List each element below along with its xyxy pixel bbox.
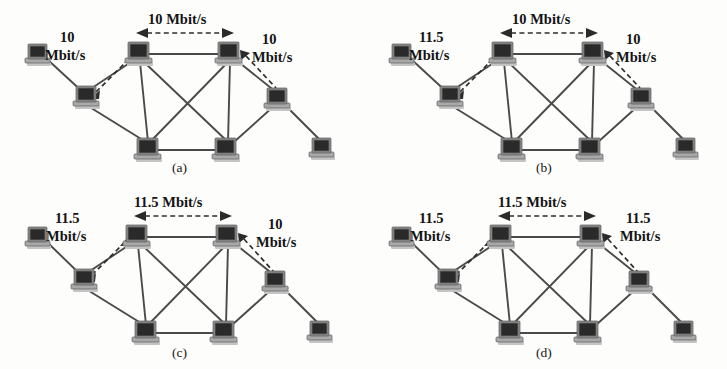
label-left-line1-a: 10 [60,29,75,45]
node-core-bottom-right [212,138,240,162]
node-core-bottom-right [576,138,604,162]
node-far-right-host [673,138,699,160]
node-core-top-left [125,42,153,66]
node-core-top-right [579,42,607,66]
node-core-bottom-left [132,321,160,345]
label-right-line2-c: Mbit/s [256,234,297,250]
label-right-line1-c: 10 [268,216,283,232]
node-core-top-left [489,42,517,66]
label-left-line2-a: Mbit/s [45,47,86,63]
flow-arrow-top-b [500,28,598,38]
flow-arrow-top-a [136,28,234,38]
label-left-line1-c: 11.5 [55,210,80,226]
node-left-access [435,269,462,292]
panel-b: 11.5 Mbit/s 10 Mbit/s 10 Mbit/s (b) [364,0,727,184]
label-top-d: 11.5 Mbit/s [498,194,567,210]
label-left-line2-c: Mbit/s [46,228,87,244]
node-far-right-host [671,321,697,343]
panel-d: 11.5 Mbit/s 11.5 Mbit/s 11.5 Mbit/s (d) [364,185,727,369]
label-right-line1-b: 10 [626,31,641,47]
node-core-bottom-right [210,321,238,345]
node-left-access [71,269,98,292]
flow-arrow-top-d [498,211,596,221]
caption-c: (c) [172,345,187,360]
node-core-bottom-left [134,138,162,162]
label-right-line1-d: 11.5 [626,210,651,226]
node-far-right-host [307,321,333,343]
panel-c: 11.5 Mbit/s 11.5 Mbit/s 10 Mbit/s (c) [0,185,363,369]
label-right-line2-a: Mbit/s [252,49,293,65]
label-left-line2-d: Mbit/s [410,228,451,244]
label-right-line2-d: Mbit/s [620,228,661,244]
label-left-line1-b: 11.5 [419,29,444,45]
node-far-right-host [309,138,335,160]
flow-arrow-top-c [134,211,232,221]
node-core-bottom-left [498,138,526,162]
node-right-access [626,271,653,294]
label-left-line2-b: Mbit/s [409,47,450,63]
figure-root: 10 Mbit/s 10 Mbit/s 10 Mbit/s (a) [0,0,727,369]
node-left-access [73,86,100,109]
label-top-b: 10 Mbit/s [512,11,571,27]
label-top-c: 11.5 Mbit/s [134,194,203,210]
node-core-bottom-left [496,321,524,345]
node-core-top-left [487,225,515,249]
panel-a: 10 Mbit/s 10 Mbit/s 10 Mbit/s (a) [0,0,363,184]
node-left-access [437,86,464,109]
label-left-line1-d: 11.5 [419,210,444,226]
node-right-access [264,88,291,111]
node-right-access [262,271,289,294]
caption-b: (b) [536,160,552,175]
caption-a: (a) [172,160,187,175]
node-core-top-right [213,225,241,249]
caption-d: (d) [536,345,552,360]
node-core-top-left [123,225,151,249]
node-core-top-right [215,42,243,66]
node-right-access [628,88,655,111]
node-core-top-right [577,225,605,249]
node-core-bottom-right [574,321,602,345]
label-right-line2-b: Mbit/s [616,49,657,65]
label-top-a: 10 Mbit/s [148,11,207,27]
label-right-line1-a: 10 [262,31,277,47]
